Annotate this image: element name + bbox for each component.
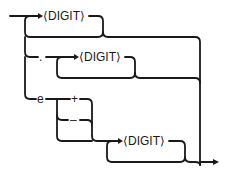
left-rail-e [25,57,36,99]
main-line-2 [135,73,200,83]
minus-split [57,115,68,120]
to-digit3 [92,136,118,141]
e-label: e [37,92,44,106]
syntax-diagram: ⟨DIGIT⟩ . ⟨DIGIT⟩ e + – ⟨DIGIT⟩ [0,0,228,176]
digit-label-3: ⟨DIGIT⟩ [123,134,165,148]
digit-label-1: ⟨DIGIT⟩ [43,9,85,23]
digit-label-2: ⟨DIGIT⟩ [79,50,121,64]
minus-line [80,120,92,125]
plus-line [80,99,92,136]
minus-label: – [70,113,77,127]
plus-label: + [71,92,78,106]
dot-label: . [39,50,42,64]
left-rail-dot [25,37,38,57]
exit-arrow-icon [213,159,219,165]
